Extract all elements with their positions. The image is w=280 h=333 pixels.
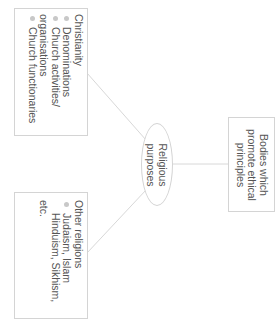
bullet-icon <box>53 16 58 21</box>
bullet-icon <box>65 16 70 21</box>
list-item-continuation: organisations <box>38 14 50 132</box>
other-religions-content: Other religions Judaism, Islam Hinduism,… <box>38 200 84 315</box>
list-item: Church activities/ <box>50 14 62 132</box>
list-item: Church functionaries <box>27 14 39 132</box>
christianity-box: Christianity Denominations Church activi… <box>14 8 88 136</box>
list-item: Denominations <box>61 14 73 132</box>
connector-top <box>87 73 146 140</box>
connector-bottom <box>87 190 146 253</box>
other-religions-box: Other religions Judaism, Islam Hinduism,… <box>14 192 88 319</box>
bullet-icon <box>65 202 70 207</box>
ethical-bodies-box: Bodies which promote ethical principles <box>228 117 275 212</box>
christianity-title: Christianity <box>73 14 85 132</box>
religious-purposes-label: Religious purposes <box>145 136 168 194</box>
christianity-content: Christianity Denominations Church activi… <box>27 14 85 132</box>
religious-purposes-node: Religious purposes <box>141 123 173 206</box>
bullet-icon <box>30 16 35 21</box>
ethical-bodies-label: Bodies which promote ethical principles <box>235 126 270 204</box>
other-religions-title: Other religions <box>73 200 85 315</box>
list-item-continuation: Hinduism, Sikhism, <box>50 200 62 315</box>
list-item-continuation: etc. <box>38 200 50 315</box>
list-item: Judaism, Islam <box>61 200 73 315</box>
